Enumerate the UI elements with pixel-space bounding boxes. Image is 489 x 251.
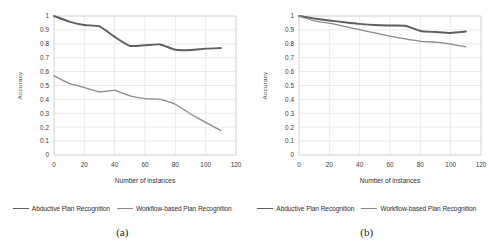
legend-swatch-workflow	[117, 208, 133, 209]
y-axis-title: Accuracy	[261, 71, 268, 99]
y-tick-label: 0.8	[40, 40, 49, 47]
chart-a: 00.10.20.30.40.50.60.70.80.9102040608010…	[0, 0, 245, 196]
y-axis-title: Accuracy	[16, 71, 23, 99]
y-tick-label: 0.3	[285, 110, 294, 117]
legend-label-workflow: Workflow-based Plan Recognition	[380, 205, 476, 212]
y-tick-label: 0.1	[40, 137, 49, 144]
y-tick-label: 0.7	[285, 54, 294, 61]
legend-label-workflow: Workflow-based Plan Recognition	[136, 205, 232, 212]
y-tick-label: 0.5	[40, 82, 49, 89]
legend-item-abductive: Abductive Plan Recognition	[257, 205, 354, 212]
x-tick-label: 20	[325, 161, 333, 168]
y-tick-label: 0.8	[285, 40, 294, 47]
legend-swatch-abductive	[257, 208, 273, 209]
y-tick-label: 0.2	[285, 124, 294, 131]
chart-a-svg: 00.10.20.30.40.50.60.70.80.9102040608010…	[0, 0, 245, 196]
y-tick-label: 0.4	[285, 96, 294, 103]
y-tick-label: 0.7	[40, 54, 49, 61]
panel-caption-a: (a)	[0, 226, 245, 238]
x-axis-title: Number of instances	[359, 177, 420, 184]
legend-item-workflow: Workflow-based Plan Recognition	[361, 205, 476, 212]
x-tick-label: 120	[475, 161, 486, 168]
x-tick-label: 60	[386, 161, 394, 168]
chart-panel-b: 00.10.20.30.40.50.60.70.80.9102040608010…	[245, 0, 489, 251]
y-tick-label: 0.3	[40, 110, 49, 117]
x-tick-label: 0	[297, 161, 301, 168]
y-tick-label: 0.6	[40, 68, 49, 75]
x-tick-label: 0	[52, 161, 56, 168]
legend-a: Abductive Plan Recognition Workflow-base…	[0, 198, 245, 218]
y-tick-label: 0.4	[40, 96, 49, 103]
x-tick-label: 120	[231, 161, 242, 168]
series-line-abductive	[299, 16, 466, 33]
legend-label-abductive: Abductive Plan Recognition	[32, 205, 110, 212]
chart-b-svg: 00.10.20.30.40.50.60.70.80.9102040608010…	[245, 0, 489, 196]
y-tick-label: 0.9	[285, 26, 294, 33]
x-tick-label: 20	[81, 161, 89, 168]
legend-swatch-workflow	[361, 208, 377, 209]
x-tick-label: 100	[445, 161, 456, 168]
x-tick-label: 80	[416, 161, 424, 168]
y-tick-label: 0.5	[285, 82, 294, 89]
series-line-workflow	[54, 76, 221, 131]
legend-b: Abductive Plan Recognition Workflow-base…	[245, 198, 489, 218]
y-tick-label: 0.1	[285, 137, 294, 144]
figure-container: 00.10.20.30.40.50.60.70.80.9102040608010…	[0, 0, 489, 251]
y-tick-label: 1	[45, 12, 49, 19]
y-tick-label: 0.6	[285, 68, 294, 75]
chart-panel-a: 00.10.20.30.40.50.60.70.80.9102040608010…	[0, 0, 245, 251]
panel-caption-b: (b)	[245, 226, 489, 238]
legend-swatch-abductive	[13, 208, 29, 209]
legend-item-abductive: Abductive Plan Recognition	[13, 205, 110, 212]
y-tick-label: 0	[290, 151, 294, 158]
x-tick-label: 40	[111, 161, 119, 168]
legend-label-abductive: Abductive Plan Recognition	[276, 205, 354, 212]
x-tick-label: 80	[172, 161, 180, 168]
x-tick-label: 60	[141, 161, 149, 168]
y-tick-label: 0.2	[40, 124, 49, 131]
y-tick-label: 1	[290, 12, 294, 19]
series-line-abductive	[54, 16, 221, 50]
y-tick-label: 0	[45, 151, 49, 158]
y-tick-label: 0.9	[40, 26, 49, 33]
chart-b: 00.10.20.30.40.50.60.70.80.9102040608010…	[245, 0, 489, 196]
legend-item-workflow: Workflow-based Plan Recognition	[117, 205, 232, 212]
x-tick-label: 40	[356, 161, 364, 168]
x-tick-label: 100	[200, 161, 211, 168]
x-axis-title: Number of instances	[115, 177, 176, 184]
